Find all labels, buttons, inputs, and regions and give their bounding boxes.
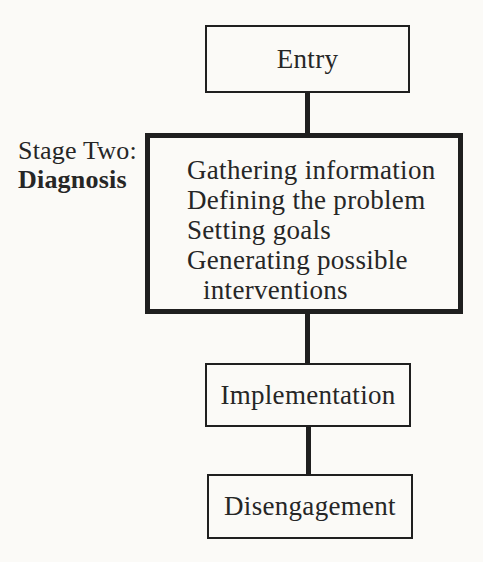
diagnosis-line-2: Defining the problem [187,185,458,215]
disengagement-box: Disengagement [207,474,413,539]
entry-box: Entry [205,25,410,93]
connector-implementation-to-disengagement [306,425,311,476]
implementation-box: Implementation [205,363,411,427]
stage-label: Stage Two: Diagnosis [18,136,137,194]
implementation-label: Implementation [220,380,395,411]
connector-diagnosis-to-implementation [305,311,310,365]
entry-label: Entry [277,44,339,75]
connector-entry-to-diagnosis [305,91,310,138]
stage-label-line1: Stage Two: [18,136,137,165]
diagnosis-box: Gathering information Defining the probl… [145,133,463,314]
stage-label-line2: Diagnosis [18,165,137,194]
flowchart-page: Entry Stage Two: Diagnosis Gathering inf… [0,0,483,562]
disengagement-label: Disengagement [224,491,396,522]
diagnosis-line-5: interventions [187,275,458,305]
diagnosis-line-1: Gathering information [187,155,458,185]
diagnosis-line-4: Generating possible [187,245,458,275]
diagnosis-line-3: Setting goals [187,215,458,245]
